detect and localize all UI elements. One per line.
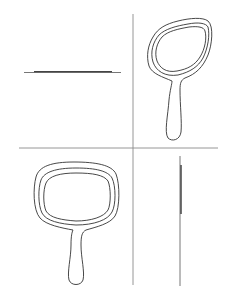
hand-mirror-diagram [0, 0, 226, 296]
perspective-view-mirror [148, 18, 212, 140]
side-view-horizontal [24, 72, 121, 73]
side-view-vertical [180, 156, 181, 286]
front-view-mirror [34, 162, 119, 285]
